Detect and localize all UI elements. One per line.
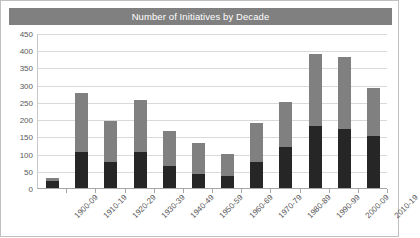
y-axis-tick-label: 200 xyxy=(20,116,33,125)
x-axis-tick xyxy=(183,189,184,193)
bar-1950-59 xyxy=(192,143,205,188)
bar-1980-89 xyxy=(279,102,292,188)
bar-segment-lower xyxy=(367,136,380,188)
bar-segment-lower xyxy=(75,152,88,188)
bar-segment-upper xyxy=(367,88,380,136)
x-axis-tick xyxy=(154,189,155,193)
y-axis-tick-label: 100 xyxy=(20,150,33,159)
gridline xyxy=(38,34,387,35)
y-axis-tick-label: 450 xyxy=(20,30,33,39)
x-axis-tick xyxy=(125,189,126,193)
chart-title-banner: Number of Initiatives by Decade xyxy=(9,8,392,25)
x-axis-tick xyxy=(358,189,359,193)
bar-1930-39 xyxy=(134,100,147,188)
x-axis-tick-label: 2010-19 xyxy=(393,193,420,220)
bar-1990-99 xyxy=(309,54,322,188)
bar-segment-lower xyxy=(250,162,263,188)
bar-2000-09 xyxy=(338,57,351,188)
bar-segment-upper xyxy=(250,123,263,163)
x-axis-tick-label: 1940-49 xyxy=(189,193,216,220)
bar-1920-29 xyxy=(104,121,117,188)
x-axis-tick-label: 2000-09 xyxy=(364,193,391,220)
bar-segment-lower xyxy=(134,152,147,188)
gridline xyxy=(38,155,387,156)
bar-1970-79 xyxy=(250,123,263,188)
x-axis-tick xyxy=(387,189,388,193)
x-axis-tick-label: 1950-59 xyxy=(218,193,245,220)
x-axis-tick xyxy=(300,189,301,193)
y-axis-tick-label: 350 xyxy=(20,64,33,73)
x-axis-tick xyxy=(212,189,213,193)
y-axis-tick-label: 50 xyxy=(24,167,33,176)
bar-segment-lower xyxy=(104,162,117,188)
x-axis-tick xyxy=(95,189,96,193)
bar-segment-lower xyxy=(46,181,59,188)
gridline xyxy=(38,137,387,138)
bar-segment-lower xyxy=(309,126,322,188)
bar-segment-upper xyxy=(75,93,88,152)
x-axis-tick-label: 1900-09 xyxy=(72,193,99,220)
bar-1900-09 xyxy=(46,178,59,188)
x-axis-tick-label: 1960-69 xyxy=(247,193,274,220)
x-axis-tick-label: 1980-89 xyxy=(306,193,333,220)
gridline xyxy=(38,68,387,69)
y-axis-tick-label: 250 xyxy=(20,98,33,107)
page-title: Number of Initiatives by Decade xyxy=(132,11,270,22)
plot-area xyxy=(37,34,387,189)
x-axis-tick-label: 1920-29 xyxy=(131,193,158,220)
x-axis-tick-label: 1930-39 xyxy=(160,193,187,220)
y-axis-tick-label: 150 xyxy=(20,133,33,142)
bar-segment-lower xyxy=(338,129,351,188)
gridline xyxy=(38,172,387,173)
x-axis-tick-label: 1910-19 xyxy=(101,193,128,220)
x-axis-tick-label: 1970-79 xyxy=(276,193,303,220)
x-axis-tick xyxy=(329,189,330,193)
y-axis-tick-label: 400 xyxy=(20,47,33,56)
bar-1940-49 xyxy=(163,131,176,188)
y-axis-tick-label: 0 xyxy=(29,185,33,194)
bar-segment-upper xyxy=(279,102,292,147)
bar-1910-19 xyxy=(75,93,88,188)
gridline xyxy=(38,51,387,52)
bar-segment-upper xyxy=(309,54,322,126)
y-axis-tick-label: 300 xyxy=(20,81,33,90)
gridline xyxy=(38,120,387,121)
x-axis-tick xyxy=(270,189,271,193)
bar-segment-lower xyxy=(279,147,292,188)
bar-segment-upper xyxy=(221,154,234,176)
bar-segment-upper xyxy=(163,131,176,165)
y-axis-labels: 050100150200250300350400450 xyxy=(1,1,37,238)
bar-segment-lower xyxy=(192,174,205,188)
gridline xyxy=(38,86,387,87)
bar-segment-upper xyxy=(134,100,147,152)
bar-1960-69 xyxy=(221,154,234,188)
bar-segment-upper xyxy=(338,57,351,129)
x-axis-tick xyxy=(66,189,67,193)
bar-segment-lower xyxy=(221,176,234,188)
bar-segment-upper xyxy=(192,143,205,174)
gridline xyxy=(38,103,387,104)
bar-segment-upper xyxy=(104,121,117,162)
x-axis-tick xyxy=(241,189,242,193)
bar-segment-lower xyxy=(163,166,176,188)
bar-2010-19 xyxy=(367,88,380,188)
x-axis-tick-label: 1990-99 xyxy=(335,193,362,220)
